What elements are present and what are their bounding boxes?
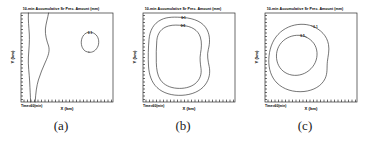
panel-a-caption: (a) — [0, 118, 122, 134]
panel-c: 10-min Accumulative Sr Prec. Amount (mm)… — [244, 0, 366, 145]
panel-c-x-axis-label: X (km) — [305, 106, 318, 111]
panel-a: 10-min Accumulative Sr Prec. Amount (mm)… — [0, 0, 122, 145]
panel-c-y-axis-label: Y (km) — [254, 50, 259, 63]
panel-b-y-axis-label: Y (km) — [132, 50, 137, 63]
panel-b-title: 10-min Accumulative Sr Prec. Amount (mm) — [145, 7, 222, 11]
panel-b-x-axis-label: X (km) — [183, 106, 196, 111]
panel-b-caption: (b) — [122, 118, 244, 134]
panel-b: 10-min Accumulative Sr Prec. Amount (mm)… — [122, 0, 244, 145]
panel-a-y-axis-label: Y (km) — [10, 50, 15, 63]
panel-c-caption: (c) — [244, 118, 366, 134]
panel-c-contour-label-inner: 0.5 — [300, 34, 305, 38]
panel-b-contour-label-outer: 0.1 — [181, 16, 186, 20]
panel-b-contour-label-inner: 0.5 — [181, 24, 186, 28]
panel-a-title: 10-min Accumulative Sr Prec. Amount (mm) — [23, 7, 100, 11]
figure-contour-panels: 10-min Accumulative Sr Prec. Amount (mm)… — [0, 0, 366, 145]
panel-b-time-label: Time=60(min) — [143, 104, 164, 108]
panel-c-time-label: Time=60(min) — [265, 104, 286, 108]
panel-a-contour-label: 0.1 — [88, 31, 93, 35]
panel-c-title: 10-min Accumulative Sr Prec. Amount (mm) — [267, 7, 344, 11]
panel-c-contour-label-outer: 0.1 — [313, 25, 318, 29]
panel-a-x-axis-label: X (km) — [61, 106, 74, 111]
panel-a-time-label: Time=60(min) — [21, 104, 42, 108]
